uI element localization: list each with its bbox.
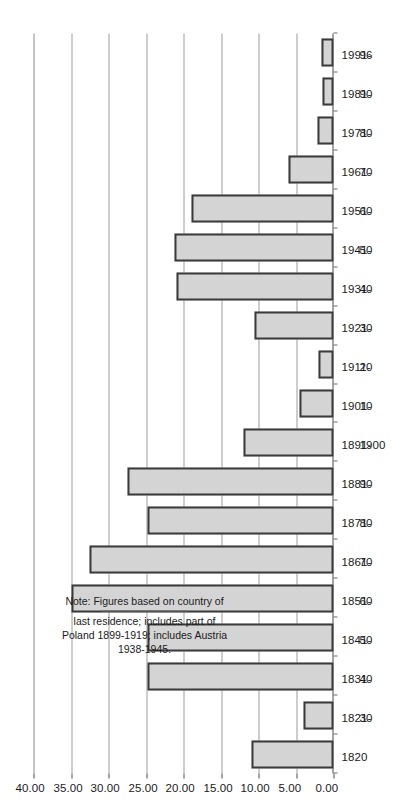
category-tick (333, 616, 337, 617)
category-tick (333, 266, 337, 267)
bar[interactable] (321, 38, 333, 66)
bar[interactable] (317, 116, 334, 144)
value-label-5: 5.00 (278, 781, 301, 793)
bar[interactable] (318, 350, 333, 378)
category-tick (333, 188, 337, 189)
category-tick (333, 655, 337, 656)
category-tick (333, 538, 337, 539)
category-tick (333, 383, 337, 384)
bar[interactable] (303, 701, 333, 729)
category-tick (333, 149, 337, 150)
gridline-30 (108, 33, 109, 773)
value-tick-0 (333, 773, 334, 778)
category-label-end: 1900 (359, 438, 385, 450)
value-label-25: 25.00 (128, 781, 157, 793)
category-label-end: 30 (359, 711, 372, 723)
value-label-10: 10.00 (240, 781, 269, 793)
category-tick (333, 32, 337, 33)
value-tick-35 (71, 773, 72, 778)
bar[interactable] (243, 428, 333, 456)
category-label-end: 96 (359, 48, 372, 60)
category-tick (333, 460, 337, 461)
value-label-40: 40.00 (15, 781, 44, 793)
figure-note: Note: Figures based on country oflast re… (44, 593, 244, 655)
category-label-end: 70 (359, 555, 372, 567)
category-label-end: 50 (359, 633, 372, 645)
bar[interactable] (254, 311, 333, 339)
note-line: last residence; includes part of (44, 613, 244, 627)
value-label-30: 30.00 (90, 781, 119, 793)
value-tick-5 (296, 773, 297, 778)
bar[interactable] (89, 545, 333, 573)
value-label-35: 35.00 (53, 781, 82, 793)
category-tick (333, 305, 337, 306)
category-label-end: 60 (359, 594, 372, 606)
category-label-end: 50 (359, 243, 372, 255)
value-tick-40 (33, 773, 34, 778)
value-tick-20 (183, 773, 184, 778)
category-tick (333, 227, 337, 228)
bar[interactable] (174, 233, 333, 261)
category-label-end: 90 (359, 87, 372, 99)
value-tick-30 (108, 773, 109, 778)
category-tick (333, 772, 337, 773)
category-label-end: 80 (359, 126, 372, 138)
note-line: Poland 1899-1919; includes Austria (44, 627, 244, 641)
bar[interactable] (147, 506, 333, 534)
category-label-end: 80 (359, 516, 372, 528)
bar[interactable] (191, 194, 334, 222)
bar[interactable] (299, 389, 333, 417)
category-tick (333, 499, 337, 500)
category-tick (333, 421, 337, 422)
gridline-35 (71, 33, 72, 773)
category-label-end: 60 (359, 204, 372, 216)
category-label-end: 40 (359, 672, 372, 684)
note-line: Note: Figures based on country of (44, 593, 244, 607)
value-label-0: 0.00 (315, 781, 338, 793)
category-label-end: 30 (359, 321, 372, 333)
bar[interactable] (147, 662, 333, 690)
note-divider (101, 610, 187, 611)
category-label-end: 70 (359, 165, 372, 177)
category-label-end: 20 (359, 360, 372, 372)
note-line: 1938-1945. (44, 641, 244, 655)
plot-area (33, 33, 333, 773)
rotated-chart-stage: 18201821-301831-401841-501851-601861-701… (0, 0, 409, 807)
bar[interactable] (322, 77, 333, 105)
category-label-end: 90 (359, 477, 372, 489)
value-tick-25 (146, 773, 147, 778)
category-label-end: 40 (359, 282, 372, 294)
value-tick-10 (258, 773, 259, 778)
category-label-end: 10 (359, 399, 372, 411)
category-tick (333, 110, 337, 111)
category-tick (333, 577, 337, 578)
value-label-15: 15.00 (203, 781, 232, 793)
bar[interactable] (176, 272, 334, 300)
bar[interactable] (127, 467, 333, 495)
chart-page: 18201821-301831-401841-501851-601861-701… (0, 0, 409, 807)
category-tick (333, 733, 337, 734)
value-axis-line (33, 33, 34, 773)
value-label-20: 20.00 (165, 781, 194, 793)
category-label-start: 1820 (341, 750, 367, 762)
bar[interactable] (251, 740, 334, 768)
bar[interactable] (288, 155, 333, 183)
value-tick-15 (221, 773, 222, 778)
category-tick (333, 694, 337, 695)
gridline-25 (146, 33, 147, 773)
category-tick (333, 71, 337, 72)
category-tick (333, 344, 337, 345)
